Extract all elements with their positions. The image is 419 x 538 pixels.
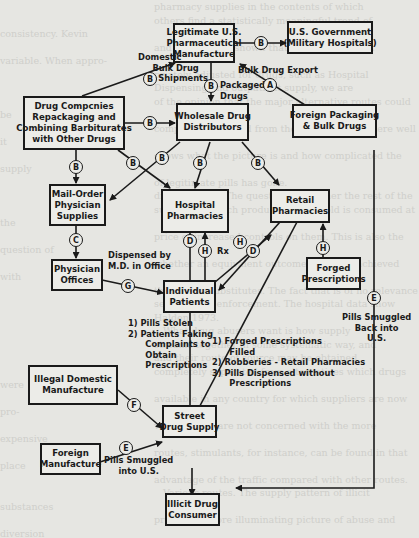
marker-forged-retail: H <box>316 241 330 255</box>
marker-smuggled-back: E <box>367 291 381 305</box>
node-us-government: U.S. Government (Military Hospitals) <box>287 21 373 54</box>
node-forged-prescriptions: Forged Prescriptions <box>306 257 361 290</box>
node-wholesale-distributors: Wholesale Drug Distributors <box>176 103 249 141</box>
label-retail-diversion-list: 1) Forged Prescriptions Filled 2) Robber… <box>212 336 365 389</box>
marker-hospital-patients: D <box>183 234 197 248</box>
node-foreign-manufacture: Foreign Manufacture <box>40 443 101 475</box>
node-illegal-domestic: Illegal Domestic Manufacture <box>28 365 118 405</box>
node-mail-order-supplies: Mail-Order Physician Supplies <box>49 184 106 226</box>
marker-companies-mail: B <box>69 160 83 174</box>
node-illicit-drug-consumer: Illicit Drug Consumer <box>165 493 220 526</box>
marker-mail-physician: C <box>69 233 83 247</box>
label-patient-diversion-list: 1) Pills Stolen 2) Patients Faking Compl… <box>128 318 213 371</box>
marker-retail-patients: D <box>246 244 260 258</box>
node-retail-pharmacies: Retail Pharmacies <box>270 189 330 223</box>
marker-patients-hospital: H <box>198 244 212 258</box>
marker-wholesale-hospital: B <box>193 156 207 170</box>
node-street-drug-supply: Street Drug Supply <box>162 405 217 438</box>
label-pills-smuggled-back: Pills Smuggled Back into U.S. <box>342 312 411 344</box>
marker-physician-patients: G <box>121 279 135 293</box>
node-hospital-pharmacies: Hospital Pharmacies <box>161 189 229 233</box>
marker-companies-wholesale: B <box>143 116 157 130</box>
node-foreign-packaging: Foreign Packaging & Bulk Drugs <box>292 104 377 138</box>
marker-packaged: B <box>204 79 218 93</box>
label-bulk-drug-export: Bulk Drug Export <box>238 65 318 76</box>
marker-mfr-gov: B <box>254 36 268 50</box>
node-drug-companies: Drug Compcnies Repackaging and Combining… <box>23 96 125 150</box>
label-rx: Rx <box>217 246 229 257</box>
label-packaged-drugs: Packaged Drugs <box>220 80 265 101</box>
marker-wholesale-mail: B <box>155 151 169 165</box>
marker-illegal-street: F <box>127 398 141 412</box>
marker-foreign-street: E <box>119 441 133 455</box>
node-individual-patients: Individual Patients <box>163 280 216 313</box>
marker-domestic-bulk: B <box>143 72 157 86</box>
label-pills-smuggled-into: Pills Smuggled into U.S. <box>104 455 173 476</box>
marker-wholesale-retail: B <box>251 156 265 170</box>
marker-export: A <box>263 78 277 92</box>
marker-patients-retail: H <box>233 235 247 249</box>
node-physician-offices: Physician Offices <box>51 259 103 291</box>
label-dispensed-by-md: Dispensed by M.D. in Office <box>108 250 171 271</box>
marker-companies-hospital: B <box>126 156 140 170</box>
